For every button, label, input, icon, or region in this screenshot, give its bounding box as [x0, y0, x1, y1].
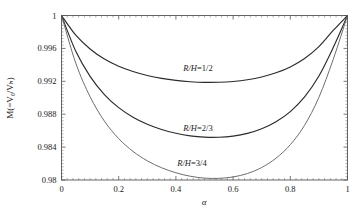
x-tick-label: 0.6: [228, 184, 239, 194]
line-chart: 0.980.9840.9880.9920.9961 00.20.40.60.81…: [0, 0, 360, 214]
y-tick-label: 1: [52, 11, 56, 21]
x-tick-label: 0.8: [285, 184, 296, 194]
y-tick-label: 0.988: [37, 109, 56, 119]
y-tick-label: 0.984: [37, 142, 57, 152]
x-tick-label: 0.2: [113, 184, 124, 194]
x-tick-label: 0: [59, 184, 63, 194]
y-tick-label: 0.98: [42, 175, 57, 185]
chart-figure: 0.980.9840.9880.9920.9961 00.20.40.60.81…: [0, 0, 360, 214]
x-tick-label: 1: [345, 184, 349, 194]
x-axis-title: α: [202, 197, 207, 207]
curve-label: R/H=2/3: [182, 123, 212, 133]
x-tick-label: 0.4: [171, 184, 182, 194]
curve-label: R/H=3/4: [176, 158, 207, 168]
y-axis-title: M(=V₀/Vₕ): [5, 77, 15, 119]
y-tick-label: 0.992: [37, 76, 56, 86]
curve-label: R/H=1/2: [182, 63, 212, 73]
y-tick-label: 0.996: [37, 43, 56, 53]
